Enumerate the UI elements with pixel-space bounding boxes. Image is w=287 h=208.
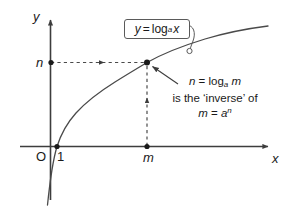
point-m-on-x-axis xyxy=(144,144,149,149)
origin-label: O xyxy=(36,150,46,163)
curve-formula-text: y = log a x xyxy=(125,20,189,38)
annotation-n: n xyxy=(189,75,195,87)
formula-argument: x xyxy=(172,22,179,36)
annotation-base: a xyxy=(224,80,228,89)
formula-equals: = xyxy=(141,22,152,36)
annotation-block: n = loga m is the ‘inverse’ of m = an xyxy=(156,74,274,121)
annotation-exponent: n xyxy=(227,106,231,115)
curve-formula-box: y = log a x xyxy=(124,19,190,39)
formula-anchor-open-circle xyxy=(187,48,192,53)
figure-canvas: y x O 1 m n y = log a x n = loga m is th… xyxy=(0,0,287,208)
tick-label-m: m xyxy=(143,151,154,164)
annotation-line-1: n = loga m xyxy=(156,74,274,91)
point-n-on-y-axis xyxy=(48,60,53,65)
annotation-line-2: is the ‘inverse’ of xyxy=(156,91,274,106)
annotation-m-arg: m xyxy=(231,75,241,87)
tick-label-n: n xyxy=(36,56,43,69)
annotation-log: log xyxy=(208,75,223,87)
annotation-line-3: m = an xyxy=(156,106,274,121)
point-m-n xyxy=(144,60,150,66)
formula-log: log xyxy=(152,22,168,36)
y-axis-label: y xyxy=(33,10,40,23)
annotation-m: m xyxy=(198,107,208,119)
x-axis-label: x xyxy=(272,152,279,165)
annotation-equals-1: = xyxy=(199,75,206,87)
tick-label-one: 1 xyxy=(57,150,64,163)
annotation-equals-2: = xyxy=(211,107,218,119)
